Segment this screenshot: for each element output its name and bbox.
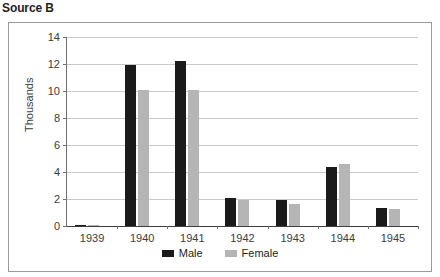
x-tick-mark <box>217 226 218 229</box>
y-axis-title: Thousands <box>23 78 35 132</box>
y-tick-label: 2 <box>54 193 60 205</box>
y-tick-label: 14 <box>48 31 60 43</box>
legend-swatch-icon <box>225 250 237 257</box>
x-tick-mark <box>368 226 369 229</box>
bar-female[interactable] <box>238 200 249 226</box>
bar-female[interactable] <box>188 90 199 226</box>
x-tick-label: 1944 <box>318 232 368 244</box>
legend-swatch-icon <box>162 250 174 257</box>
bar-male[interactable] <box>125 65 136 226</box>
y-tick-label: 8 <box>54 112 60 124</box>
x-tick-mark <box>117 226 118 229</box>
legend-item-male[interactable]: Male <box>162 247 203 259</box>
x-tick-mark <box>167 226 168 229</box>
legend-label: Male <box>179 247 203 259</box>
legend-item-female[interactable]: Female <box>225 247 279 259</box>
bar-male[interactable] <box>225 198 236 226</box>
bar-male[interactable] <box>75 225 86 226</box>
x-tick-label: 1940 <box>117 232 167 244</box>
chart-legend: MaleFemale <box>9 247 431 259</box>
legend-label: Female <box>242 247 279 259</box>
x-tick-mark <box>418 226 419 229</box>
page-title: Source B <box>2 1 54 15</box>
bar-group <box>268 37 318 226</box>
bar-group <box>167 37 217 226</box>
y-tick-label: 0 <box>54 220 60 232</box>
x-tick-label: 1941 <box>167 232 217 244</box>
bar-group <box>217 37 267 226</box>
y-tick-label: 4 <box>54 166 60 178</box>
y-tick-label: 12 <box>48 58 60 70</box>
bar-female[interactable] <box>88 225 99 226</box>
bar-male[interactable] <box>326 167 337 226</box>
gridline <box>67 226 418 227</box>
chart-frame: Thousands 02468101214 193919401941194219… <box>8 22 432 272</box>
bar-female[interactable] <box>289 204 300 226</box>
x-tick-label: 1942 <box>218 232 268 244</box>
y-tick-label: 10 <box>48 85 60 97</box>
bar-group <box>368 37 418 226</box>
plot-area: 02468101214 1939194019411942194319441945 <box>66 37 418 227</box>
bar-group <box>318 37 368 226</box>
bar-female[interactable] <box>389 209 400 226</box>
bar-male[interactable] <box>175 61 186 226</box>
x-tick-label: 1939 <box>67 232 117 244</box>
x-tick-label: 1945 <box>368 232 418 244</box>
x-tick-mark <box>268 226 269 229</box>
bar-group <box>117 37 167 226</box>
x-tick-label: 1943 <box>268 232 318 244</box>
bar-male[interactable] <box>276 200 287 226</box>
bar-group <box>67 37 117 226</box>
x-tick-mark <box>318 226 319 229</box>
y-tick-label: 6 <box>54 139 60 151</box>
bar-male[interactable] <box>376 208 387 226</box>
y-tick-mark <box>63 226 67 227</box>
bar-female[interactable] <box>138 90 149 226</box>
bar-female[interactable] <box>339 164 350 226</box>
